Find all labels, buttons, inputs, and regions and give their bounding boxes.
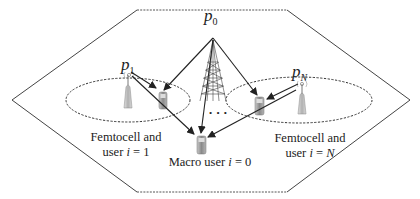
p0-sub: 0: [213, 16, 218, 27]
p0-base: p: [204, 6, 213, 25]
label-p0: p0: [204, 6, 218, 27]
caption-femto1-prefix: user: [103, 145, 127, 159]
caption-macro-user: Macro user i = 0: [160, 155, 260, 170]
p1-base: p: [121, 55, 130, 74]
label-p1: p1: [121, 55, 135, 76]
caption-femto1-line2: user i = 1: [86, 145, 166, 160]
caption-macro-prefix: Macro user: [169, 155, 229, 169]
pN-sub: N: [301, 72, 308, 83]
femto-access-point-1-icon: [124, 72, 134, 108]
macro-user-phone-icon: [197, 136, 206, 154]
pN-base: p: [292, 62, 301, 81]
caption-femtoN-eq: =: [313, 146, 326, 160]
caption-femtocell-1: Femtocell and user i = 1: [86, 130, 166, 160]
p1-sub: 1: [130, 65, 135, 76]
caption-femtoN-line1: Femtocell and: [270, 131, 350, 146]
caption-macro-eq: = 0: [232, 155, 252, 169]
caption-femtoN-val: N: [326, 146, 334, 160]
caption-femtocell-N: Femtocell and user i = N: [270, 131, 350, 161]
caption-femtoN-line2: user i = N: [270, 146, 350, 161]
femto-user-N-phone-icon: [255, 97, 264, 115]
caption-femto1-eq: = 1: [130, 145, 150, 159]
femto-access-point-N-icon: [297, 81, 307, 114]
caption-femtoN-prefix: user: [285, 146, 309, 160]
femto-user-1-phone-icon: [159, 92, 167, 109]
ellipsis-dots: • • •: [209, 108, 228, 118]
caption-femto1-line1: Femtocell and: [86, 130, 166, 145]
label-pN: pN: [292, 62, 307, 83]
